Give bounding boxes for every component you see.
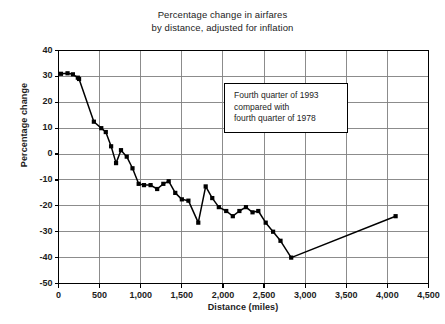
data-point-marker	[109, 144, 113, 148]
data-point-marker	[104, 130, 108, 134]
data-point-marker	[92, 120, 96, 124]
data-point-marker	[224, 209, 228, 213]
data-point-marker	[244, 205, 248, 209]
data-point-marker	[148, 183, 152, 187]
data-point-marker	[264, 221, 268, 225]
data-point-marker	[180, 197, 184, 201]
data-point-marker	[119, 148, 123, 152]
annotation-line-2: compared with	[234, 102, 339, 114]
data-point-marker	[173, 191, 177, 195]
data-point-marker	[278, 239, 282, 243]
data-point-marker	[137, 182, 141, 186]
data-point-marker	[271, 230, 275, 234]
data-point-marker	[130, 166, 134, 170]
data-point-marker	[59, 72, 63, 76]
data-point-marker	[77, 77, 81, 81]
data-point-marker	[217, 205, 221, 209]
annotation-box: Fourth quarter of 1993 compared with fou…	[224, 83, 348, 133]
data-point-marker	[204, 184, 208, 188]
data-point-marker	[237, 209, 241, 213]
data-point-marker	[125, 155, 129, 159]
chart-container: Percentage change in airfares by distanc…	[0, 0, 445, 324]
data-point-marker	[167, 179, 171, 183]
data-point-marker	[250, 210, 254, 214]
data-point-marker	[71, 72, 75, 76]
data-point-marker	[231, 214, 235, 218]
data-point-marker	[99, 126, 103, 130]
plot-area	[0, 0, 445, 324]
data-point-marker	[161, 182, 165, 186]
annotation-line-1: Fourth quarter of 1993	[234, 90, 339, 102]
data-point-marker	[210, 196, 214, 200]
annotation-line-3: fourth quarter of 1978	[234, 113, 339, 125]
data-point-marker	[186, 199, 190, 203]
data-point-marker	[155, 187, 159, 191]
data-point-marker	[289, 256, 293, 260]
data-point-marker	[65, 71, 69, 75]
data-point-marker	[256, 209, 260, 213]
data-point-marker	[196, 221, 200, 225]
data-point-marker	[394, 214, 398, 218]
data-point-marker	[114, 161, 118, 165]
data-point-marker	[142, 183, 146, 187]
